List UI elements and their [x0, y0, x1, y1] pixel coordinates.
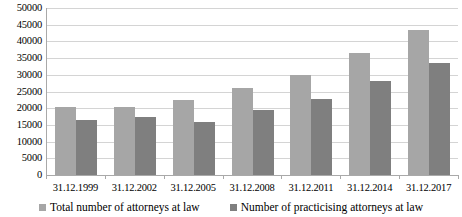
x-tick-label: 31.12.2005 [164, 181, 223, 195]
y-tick-label: 50000 [17, 3, 42, 14]
bar-total [408, 30, 429, 175]
bar-group [164, 8, 223, 175]
bars-layer [47, 8, 458, 175]
plot-area [46, 8, 458, 176]
bar-practicising [311, 99, 332, 175]
legend-item[interactable]: Number of practicising attorneys at law [230, 201, 423, 214]
y-tick-label: 10000 [17, 136, 42, 147]
y-axis: 0500010000150002000025000300003500040000… [0, 0, 42, 180]
x-tick-mark [340, 175, 341, 179]
x-tick-mark [164, 175, 165, 179]
legend-item[interactable]: Total number of attorneys at law [39, 201, 200, 214]
bar-chart: 0500010000150002000025000300003500040000… [0, 0, 462, 217]
y-tick-label: 45000 [17, 19, 42, 30]
bar-group [106, 8, 165, 175]
x-tick-label: 31.12.2011 [281, 181, 340, 195]
y-tick-label: 20000 [17, 103, 42, 114]
y-tick-label: 25000 [17, 86, 42, 97]
x-tick-label: 31.12.2008 [223, 181, 282, 195]
legend-swatch-icon [230, 204, 237, 211]
x-tick-mark [223, 175, 224, 179]
x-axis-tick-marks [46, 175, 458, 179]
y-tick-label: 5000 [22, 153, 42, 164]
bar-total [173, 100, 194, 175]
bar-group [47, 8, 106, 175]
bar-practicising [76, 120, 97, 175]
bar-total [114, 107, 135, 175]
x-tick-mark [281, 175, 282, 179]
y-tick-label: 0 [37, 170, 42, 181]
y-tick-label: 15000 [17, 120, 42, 131]
y-tick-label: 35000 [17, 53, 42, 64]
bar-practicising [253, 110, 274, 175]
bar-group [282, 8, 341, 175]
bar-group [399, 8, 458, 175]
x-tick-mark [458, 175, 459, 179]
legend-label: Total number of attorneys at law [50, 201, 200, 214]
x-tick-label: 31.12.2014 [340, 181, 399, 195]
x-tick-mark [46, 175, 47, 179]
chart-plot-wrapper: 0500010000150002000025000300003500040000… [0, 0, 462, 180]
x-tick-label: 31.12.2017 [399, 181, 458, 195]
bar-practicising [194, 122, 215, 175]
legend-swatch-icon [39, 204, 46, 211]
bar-practicising [135, 117, 156, 175]
x-tick-label: 31.12.2002 [105, 181, 164, 195]
x-axis: 31.12.199931.12.200231.12.200531.12.2008… [46, 181, 458, 195]
x-tick-mark [399, 175, 400, 179]
legend-label: Number of practicising attorneys at law [241, 201, 423, 214]
bar-total [349, 53, 370, 175]
bar-total [55, 107, 76, 175]
x-tick-mark [105, 175, 106, 179]
bar-total [232, 88, 253, 175]
chart-legend: Total number of attorneys at lawNumber o… [0, 197, 462, 217]
bar-total [290, 75, 311, 175]
bar-practicising [370, 81, 391, 175]
x-tick-label: 31.12.1999 [46, 181, 105, 195]
bar-group [223, 8, 282, 175]
y-tick-label: 30000 [17, 70, 42, 81]
bar-practicising [429, 63, 450, 175]
y-tick-label: 40000 [17, 36, 42, 47]
bar-group [341, 8, 400, 175]
